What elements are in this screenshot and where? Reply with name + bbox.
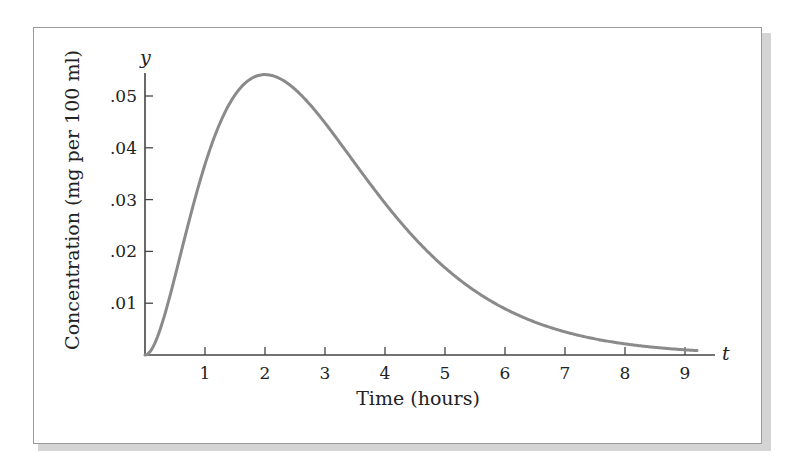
ticks: 123456789.01.02.03.04.05	[110, 86, 690, 383]
x-tick-label: 3	[320, 363, 331, 383]
y-axis-variable: y	[139, 46, 151, 68]
x-tick-label: 2	[260, 363, 271, 383]
y-tick-label: .01	[110, 293, 137, 313]
y-tick-label: .04	[110, 138, 137, 158]
x-tick-label: 6	[500, 363, 511, 383]
x-tick-label: 1	[200, 363, 211, 383]
x-tick-label: 5	[440, 363, 451, 383]
x-tick-label: 9	[680, 363, 691, 383]
x-tick-label: 4	[380, 363, 391, 383]
x-tick-label: 7	[560, 363, 571, 383]
x-tick-label: 8	[620, 363, 631, 383]
axes: ty	[139, 46, 730, 364]
y-tick-label: .05	[110, 86, 137, 106]
y-tick-label: .02	[110, 241, 137, 261]
x-axis-variable: t	[722, 342, 730, 364]
plot-area: ty 123456789.01.02.03.04.05	[0, 0, 792, 466]
y-tick-label: .03	[110, 190, 137, 210]
concentration-curve	[145, 75, 697, 355]
